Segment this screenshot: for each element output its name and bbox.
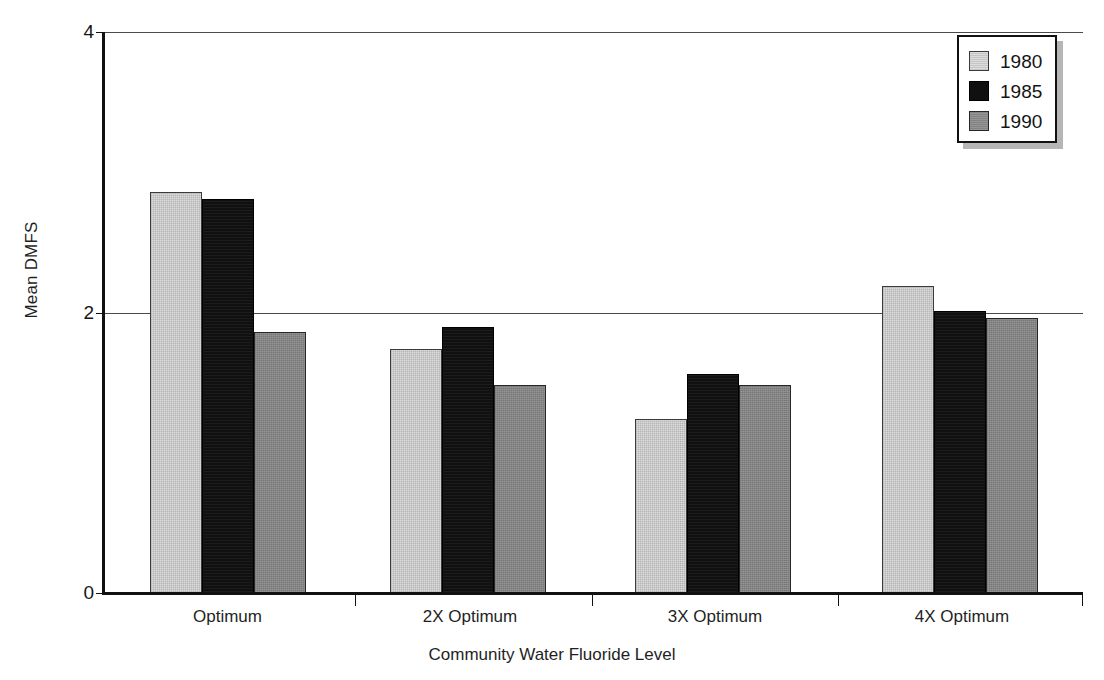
- legend-item-1985[interactable]: 1985: [969, 76, 1055, 106]
- y-axis-title: Mean DMFS: [22, 200, 42, 340]
- y-tick-4-label: 4: [54, 22, 94, 41]
- bar-2x-optimum-1980[interactable]: [390, 349, 442, 593]
- legend-swatch-1990-icon: [969, 111, 989, 131]
- legend-item-1990[interactable]: 1990: [969, 106, 1055, 136]
- plot-area: [105, 32, 1083, 593]
- bar-optimum-1980[interactable]: [150, 192, 202, 593]
- legend: 1980 1985 1990: [957, 35, 1057, 143]
- y-axis-line: [102, 32, 105, 595]
- x-label-4x-optimum: 4X Optimum: [882, 607, 1042, 627]
- legend-swatch-1985-icon: [969, 81, 989, 101]
- bars-layer: [105, 32, 1083, 593]
- legend-item-1980[interactable]: 1980: [969, 46, 1055, 76]
- x-tickmark-4: [1082, 595, 1083, 606]
- x-tickmark-2: [592, 595, 593, 606]
- bar-4x-optimum-1990[interactable]: [986, 318, 1038, 593]
- bar-2x-optimum-1985[interactable]: [442, 327, 494, 593]
- legend-label-1985: 1985: [1000, 82, 1042, 101]
- x-tickmark-1: [355, 595, 356, 606]
- legend-label-1980: 1980: [1000, 52, 1042, 71]
- bar-3x-optimum-1990[interactable]: [739, 385, 791, 593]
- x-label-optimum: Optimum: [150, 607, 305, 627]
- bar-chart: Mean DMFS 4 2 0: [0, 0, 1104, 680]
- bar-optimum-1985[interactable]: [202, 199, 254, 593]
- bar-3x-optimum-1985[interactable]: [687, 374, 739, 593]
- bar-4x-optimum-1980[interactable]: [882, 286, 934, 593]
- x-tickmark-3: [838, 595, 839, 606]
- bar-3x-optimum-1980[interactable]: [635, 419, 687, 593]
- y-tick-0-label: 0: [54, 583, 94, 602]
- legend-swatch-1980-icon: [969, 51, 989, 71]
- y-tick-2-label: 2: [54, 303, 94, 322]
- legend-label-1990: 1990: [1000, 112, 1042, 131]
- x-axis-title: Community Water Fluoride Level: [0, 645, 1104, 665]
- bar-4x-optimum-1985[interactable]: [934, 311, 986, 593]
- bar-optimum-1990[interactable]: [254, 332, 306, 593]
- x-label-2x-optimum: 2X Optimum: [390, 607, 550, 627]
- x-label-3x-optimum: 3X Optimum: [635, 607, 795, 627]
- bar-2x-optimum-1990[interactable]: [494, 385, 546, 593]
